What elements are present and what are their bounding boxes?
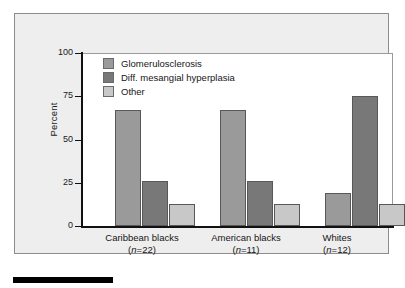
y-tick-label-100: 100 <box>37 48 73 57</box>
caption-rule <box>13 277 113 283</box>
bar-whites-other <box>379 204 405 226</box>
x-category-count-whites: (n=12) <box>277 244 397 256</box>
x-category-label-whites: Whites <box>322 232 351 243</box>
x-category-label-caribbean-blacks: Caribbean blacks <box>105 232 178 243</box>
bars-layer <box>83 53 394 226</box>
x-category-label-american-blacks: American blacks <box>211 232 281 243</box>
y-tick-mark-100 <box>75 53 81 54</box>
x-category-count-value-caribbean-blacks: =22 <box>137 244 153 255</box>
y-axis-title: Percent <box>48 80 59 160</box>
x-axis-line <box>81 226 394 228</box>
bar-caribbean-blacks-other <box>169 204 195 226</box>
y-tick-label-0-wrap: 0 <box>37 221 73 231</box>
bar-american-blacks-diff-mesangial-hyperplasia <box>247 181 273 226</box>
y-tick-label-0: 0 <box>37 221 73 230</box>
bar-caribbean-blacks-diff-mesangial-hyperplasia <box>142 181 168 226</box>
y-tick-mark-50 <box>75 140 81 141</box>
y-tick-label-100-wrap: 100 <box>37 48 73 58</box>
bar-american-blacks-glomerulosclerosis <box>220 110 246 226</box>
x-category-count-value-whites: =12 <box>332 244 348 255</box>
x-category-count-value-american-blacks: =11 <box>241 244 256 255</box>
y-tick-mark-25 <box>75 183 81 184</box>
bar-whites-glomerulosclerosis <box>325 193 351 226</box>
y-tick-label-25-wrap: 25 <box>37 178 73 188</box>
y-tick-label-25: 25 <box>37 178 73 187</box>
bar-american-blacks-other <box>274 204 300 226</box>
y-tick-mark-0 <box>75 226 81 227</box>
x-category-whites: Whites (n=12) <box>277 232 397 256</box>
figure-panel: 100 75 50 25 0 Percent Glomerulosclerosi… <box>14 13 389 254</box>
bar-caribbean-blacks-glomerulosclerosis <box>115 110 141 226</box>
bar-whites-diff-mesangial-hyperplasia <box>352 96 378 226</box>
y-tick-mark-75 <box>75 96 81 97</box>
